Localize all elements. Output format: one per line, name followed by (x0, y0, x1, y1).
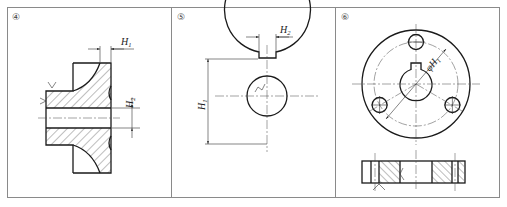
drawing-canvas: ④ H1 (0, 0, 507, 207)
panel-6: ⑥ φH1 (341, 12, 480, 191)
svg-text:H2: H2 (279, 24, 291, 36)
dimension-h1: H1 (196, 59, 267, 144)
dimension-h1: H1 (88, 36, 134, 62)
flange-section-view (362, 150, 465, 191)
panel-4: ④ H1 (12, 12, 140, 173)
dimension-h2: H2 (112, 97, 140, 138)
panel-5: ⑤ H2 H1 (177, 0, 320, 152)
panel-number: ⑤ (177, 12, 185, 22)
dimension-h2: H2 (246, 24, 293, 52)
svg-text:H1: H1 (196, 100, 208, 111)
break-symbol (255, 84, 265, 92)
washer-outline (225, 0, 311, 116)
svg-text:H2: H2 (124, 97, 136, 109)
svg-text:H1: H1 (120, 36, 131, 48)
flange-centerlines (352, 24, 480, 145)
panel-number: ④ (12, 12, 20, 22)
panel-number: ⑥ (341, 12, 349, 22)
